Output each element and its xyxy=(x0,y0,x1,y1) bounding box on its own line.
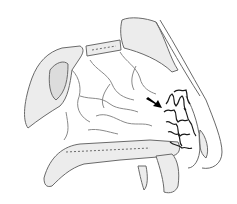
alveolar-process xyxy=(138,154,179,193)
nasal-anatomy-illustration xyxy=(0,0,237,204)
nose-contour xyxy=(186,96,222,168)
cribriform-plate xyxy=(86,40,121,56)
upper-skull-bone xyxy=(25,46,83,128)
cavity-branching-lines xyxy=(64,52,156,140)
illustration-canvas xyxy=(0,0,237,204)
vascular-plexus xyxy=(164,90,196,149)
arrow-icon xyxy=(146,97,162,108)
